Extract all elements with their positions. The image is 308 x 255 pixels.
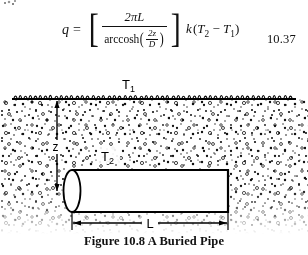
minus-sign: − <box>212 21 219 36</box>
pipe-body-fill <box>72 170 228 212</box>
right-bracket: ] <box>170 13 180 46</box>
left-bracket: [ <box>89 13 99 46</box>
arg-left-paren: ( <box>140 29 144 49</box>
depth-label: z <box>53 140 59 154</box>
fraction-numerator: 2πL <box>120 10 148 26</box>
equation-10-37: q = [ 2πL arccosh ( 2z D ) ] <box>62 10 239 49</box>
equation-rhs: k (T2 − T1) <box>186 21 239 39</box>
temp-cold-subscript: 1 <box>230 28 235 38</box>
temperature-difference-term: (T2 − T1) <box>192 21 239 36</box>
equation-number: 10.37 <box>267 32 296 47</box>
arccosh-argument-fraction: 2z D <box>146 29 158 49</box>
figure-page: q = [ 2πL arccosh ( 2z D ) ] <box>0 0 308 255</box>
figure-caption: Figure 10.8 A Buried Pipe <box>0 234 308 249</box>
fraction-denominator: arccosh ( 2z D ) <box>102 27 166 49</box>
soil-region <box>0 99 308 234</box>
arg-denominator: D <box>147 40 158 49</box>
ground-hatching <box>14 95 292 98</box>
conductivity-k: k <box>186 21 192 36</box>
arg-numerator: 2z <box>146 29 158 38</box>
arccosh-label: arccosh <box>104 33 139 45</box>
pipe-temperature-group: T2 <box>98 146 120 166</box>
surface-temperature-label: T1 <box>122 77 135 94</box>
equation-row: q = [ 2πL arccosh ( 2z D ) ] <box>0 8 308 60</box>
length-label: L <box>146 216 153 231</box>
arg-right-paren: ) <box>160 29 164 49</box>
equation-equals-sign: = <box>73 22 81 38</box>
buried-pipe-diagram: T1 z T2 <box>0 62 308 234</box>
pipe-left-opening <box>64 170 81 212</box>
surface-temperature-subscript: 1 <box>130 84 135 94</box>
buried-pipe <box>64 169 229 213</box>
equation-lhs-q: q <box>62 22 69 38</box>
scan-artifact <box>3 0 17 7</box>
pipe-temperature-subscript: 2 <box>109 156 114 166</box>
main-fraction: 2πL arccosh ( 2z D ) <box>102 10 166 49</box>
temp-hot-subscript: 2 <box>204 28 209 38</box>
